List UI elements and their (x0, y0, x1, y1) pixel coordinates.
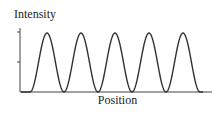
x-axis-label: Position (0, 93, 221, 108)
intensity-curve (21, 33, 203, 92)
axes (17, 28, 212, 92)
